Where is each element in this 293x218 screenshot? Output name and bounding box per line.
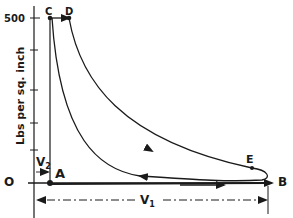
label-a: A [55, 166, 65, 181]
y-axis-label: Lbs per sq. inch [14, 47, 27, 145]
label-b: B [278, 175, 287, 189]
label-e: E [246, 153, 254, 166]
label-d: D [65, 6, 73, 17]
line-a-b [50, 183, 268, 184]
arrow-expansion [145, 147, 152, 151]
pv-diagram: 500 O Lbs per sq. inch C D E A B V2 V1 [0, 0, 293, 218]
point-a [47, 180, 53, 186]
curve-e-b [140, 168, 267, 181]
label-c: C [45, 6, 52, 17]
origin-label: O [4, 175, 14, 189]
curve-d-e [69, 18, 252, 168]
y-axis [30, 6, 40, 218]
label-v1: V1 [140, 193, 155, 209]
y-tick-500: 500 [4, 13, 25, 24]
label-v2: V2 [36, 155, 51, 171]
point-e [250, 166, 254, 170]
curve-compression [52, 18, 140, 176]
